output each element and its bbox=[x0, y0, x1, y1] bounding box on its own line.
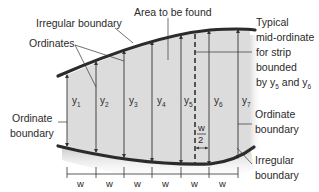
svg-text:Ordinate: Ordinate bbox=[12, 112, 52, 124]
typical-mid-ordinate-label: Typical mid-ordinate for strip bounded b… bbox=[256, 16, 315, 90]
svg-text:2: 2 bbox=[198, 134, 203, 145]
svg-text:w: w bbox=[133, 178, 141, 189]
svg-text:w: w bbox=[197, 122, 205, 133]
svg-text:by y5 and y6: by y5 and y6 bbox=[256, 76, 312, 90]
svg-text:w: w bbox=[76, 178, 84, 189]
svg-text:Typical: Typical bbox=[256, 16, 289, 28]
svg-text:bounded: bounded bbox=[256, 61, 297, 73]
svg-text:w: w bbox=[218, 178, 226, 189]
ordinates-label: Ordinates bbox=[29, 37, 75, 49]
diagram-canvas: y1 y2 y3 y4 y5 y6 y7 w 2 w w w w w w bbox=[0, 0, 319, 192]
svg-text:boundary: boundary bbox=[255, 169, 300, 181]
svg-text:Irregular: Irregular bbox=[255, 154, 295, 166]
svg-text:mid-ordinate: mid-ordinate bbox=[256, 31, 315, 43]
svg-text:w: w bbox=[190, 178, 198, 189]
svg-text:Ordinate: Ordinate bbox=[255, 108, 295, 120]
svg-text:boundary: boundary bbox=[10, 127, 55, 139]
irregular-boundary-top-label: Irregular boundary bbox=[36, 17, 123, 29]
svg-text:w: w bbox=[105, 178, 113, 189]
svg-text:boundary: boundary bbox=[255, 123, 300, 135]
svg-text:w: w bbox=[161, 178, 169, 189]
ordinate-boundary-left-label: Ordinate boundary bbox=[10, 112, 55, 139]
area-to-be-found-label: Area to be found bbox=[134, 6, 212, 18]
irregular-boundary-bottom-label: Irregular boundary bbox=[255, 154, 300, 181]
svg-text:for strip: for strip bbox=[256, 46, 291, 58]
